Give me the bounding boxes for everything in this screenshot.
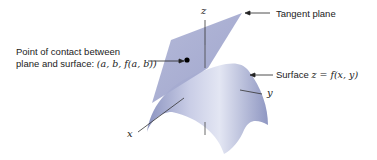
contact-point-math: (a, b, f(a, b)) [97, 58, 157, 69]
tangent-plane-diagram [0, 0, 377, 160]
tangent-plane-label: Tangent plane [276, 8, 336, 19]
x-axis-label: x [127, 128, 133, 139]
contact-point-label-line2: plane and surface: (a, b, f(a, b)) [16, 58, 157, 69]
y-axis-label: y [267, 87, 273, 98]
surface-math: z = f(x, y) [311, 69, 358, 80]
z-axis-label: z [201, 5, 206, 16]
contact-point-label-line1: Point of contact between [16, 46, 120, 57]
contact-point [184, 57, 189, 62]
surface-label: Surface z = f(x, y) [276, 69, 358, 80]
